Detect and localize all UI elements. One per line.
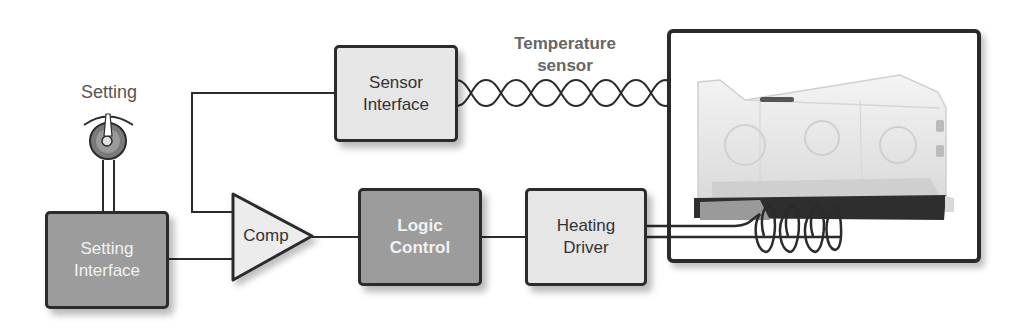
setting-interface-line2: Interface xyxy=(74,260,140,282)
heating-driver-line2: Driver xyxy=(563,237,608,259)
sensor-interface-line2: Interface xyxy=(363,94,429,116)
feedback-wire xyxy=(192,93,334,212)
heating-driver-block: Heating Driver xyxy=(525,188,647,286)
comparator-label: Comp xyxy=(236,226,296,246)
sensor-interface-line1: Sensor xyxy=(369,72,423,94)
logic-control-block: Logic Control xyxy=(358,188,482,286)
logic-control-line1: Logic xyxy=(397,215,442,237)
setting-interface-line1: Setting xyxy=(81,238,134,260)
temperature-sensor-label-line1: Temperature xyxy=(500,33,630,55)
logic-control-line2: Control xyxy=(390,237,450,259)
sensor-interface-block: Sensor Interface xyxy=(334,45,458,142)
temperature-sensor-label: Temperature sensor xyxy=(500,33,630,77)
heating-driver-line1: Heating xyxy=(557,215,616,237)
setting-knob-icon xyxy=(84,114,133,159)
setting-interface-block: Setting Interface xyxy=(45,211,169,309)
temperature-sensor-label-line2: sensor xyxy=(500,55,630,77)
incubator-image xyxy=(694,75,954,220)
block-diagram: Setting Temperature sensor Sensor Interf… xyxy=(0,0,1027,328)
knob-stem xyxy=(103,160,114,212)
setting-label: Setting xyxy=(74,82,144,103)
